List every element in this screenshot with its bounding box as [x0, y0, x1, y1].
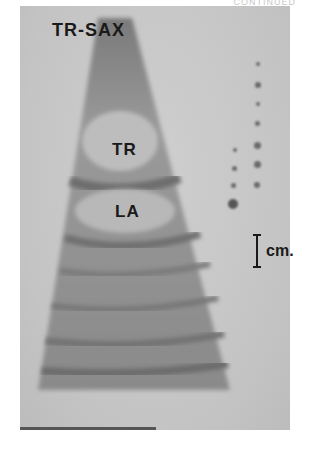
ultrasound-sector — [20, 6, 290, 430]
bottom-edge-line — [20, 427, 156, 430]
scale-bar-icon — [252, 234, 262, 268]
structure-label-tr: TR — [112, 140, 137, 160]
structure-label-la: LA — [115, 202, 140, 222]
view-label: TR-SAX — [52, 20, 125, 41]
scale-label: cm. — [266, 242, 294, 260]
echocardiogram-image: TR-SAX TR LA cm. — [20, 6, 290, 430]
